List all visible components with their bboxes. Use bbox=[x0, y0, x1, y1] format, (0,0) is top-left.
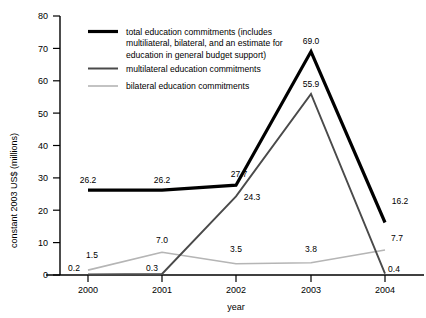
legend-label-total-line1: total education commitments (includes bbox=[126, 27, 272, 37]
legend-label-total-line2: multiliateral, bilateral, and an estimat… bbox=[126, 38, 283, 48]
y-tick-50: 50 bbox=[38, 109, 48, 119]
y-axis-title: constant 2003 US$ (millions) bbox=[9, 133, 19, 248]
x-axis-title: year bbox=[227, 302, 245, 312]
y-tick-10: 10 bbox=[38, 238, 48, 248]
y-tick-labels: 0 10 20 30 40 50 60 70 80 bbox=[38, 11, 48, 280]
y-tick-20: 20 bbox=[38, 206, 48, 216]
legend-label-multilateral: multilateral education commitments bbox=[126, 64, 261, 74]
x-tick-2004: 2004 bbox=[375, 285, 395, 295]
data-label-total-2000: 26.2 bbox=[80, 175, 97, 185]
data-label-multi-2001: 0.3 bbox=[146, 263, 158, 273]
y-tick-0: 0 bbox=[43, 270, 48, 280]
line-chart: constant 2003 US$ (millions) 0 10 20 30 … bbox=[0, 0, 426, 318]
x-tick-labels: 2000 2001 2002 2003 2004 bbox=[78, 285, 395, 295]
x-tick-2000: 2000 bbox=[78, 285, 98, 295]
legend-entry-multilateral[interactable]: multilateral education commitments bbox=[88, 64, 261, 74]
chart-legend: total education commitments (includes mu… bbox=[88, 27, 283, 92]
y-tick-60: 60 bbox=[38, 76, 48, 86]
chart-canvas: constant 2003 US$ (millions) 0 10 20 30 … bbox=[0, 0, 426, 318]
data-label-bi-2004: 7.7 bbox=[391, 233, 403, 243]
y-tick-marks bbox=[53, 16, 60, 275]
y-tick-40: 40 bbox=[38, 141, 48, 151]
data-label-bi-2003: 3.8 bbox=[305, 244, 317, 254]
data-label-total-2004: 16.2 bbox=[392, 196, 409, 206]
y-tick-80: 80 bbox=[38, 11, 48, 21]
data-label-multi-2002: 24.3 bbox=[244, 192, 261, 202]
x-tick-2002: 2002 bbox=[226, 285, 246, 295]
data-label-total-2001: 26.2 bbox=[154, 175, 171, 185]
legend-label-total-line3: education in general budget support) bbox=[126, 50, 266, 60]
data-label-bi-2002: 3.5 bbox=[230, 244, 242, 254]
data-label-total-2002: 27.7 bbox=[231, 169, 248, 179]
y-tick-30: 30 bbox=[38, 173, 48, 183]
y-tick-70: 70 bbox=[38, 44, 48, 54]
legend-entry-total[interactable]: total education commitments (includes mu… bbox=[88, 27, 283, 60]
x-tick-2001: 2001 bbox=[152, 285, 172, 295]
x-tick-2003: 2003 bbox=[301, 285, 321, 295]
x-tick-marks bbox=[88, 275, 385, 282]
legend-label-bilateral: bilateral education commitments bbox=[126, 81, 249, 91]
data-label-total-2003: 69.0 bbox=[303, 36, 320, 46]
legend-entry-bilateral[interactable]: bilateral education commitments bbox=[88, 81, 249, 91]
data-label-multi-2000: 0.2 bbox=[68, 263, 80, 273]
data-labels-total: 26.2 26.2 27.7 69.0 16.2 bbox=[80, 36, 409, 206]
data-label-bi-2001: 7.0 bbox=[156, 235, 168, 245]
data-label-bi-2000: 1.5 bbox=[86, 250, 98, 260]
data-labels-bilateral: 1.5 7.0 3.5 3.8 7.7 bbox=[86, 233, 403, 260]
data-label-multi-2004: 0.4 bbox=[388, 264, 400, 274]
data-label-multi-2003: 55.9 bbox=[303, 79, 320, 89]
